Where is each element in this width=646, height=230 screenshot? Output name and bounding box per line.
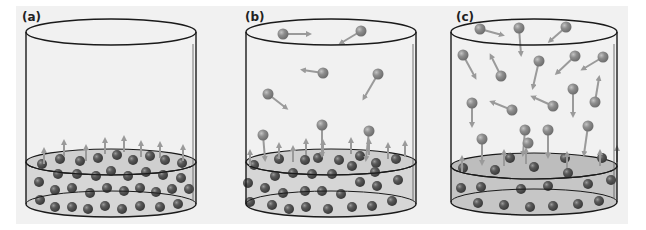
liquid-molecule [53, 169, 63, 179]
liquid-molecule [67, 202, 77, 212]
vapor-molecule [496, 71, 507, 82]
liquid-molecule [391, 154, 401, 164]
vapor-molecule [523, 138, 534, 149]
liquid-molecule [499, 200, 509, 210]
liquid-molecule [155, 202, 165, 212]
liquid-molecule [476, 182, 486, 192]
vapor-molecule [534, 56, 545, 67]
liquid-molecule [505, 153, 515, 163]
liquid-molecule [355, 177, 365, 187]
liquid-molecule [490, 165, 500, 175]
liquid-molecule [323, 204, 333, 214]
container-rim [246, 19, 416, 45]
liquid-molecule [85, 188, 95, 198]
liquid-molecule [583, 179, 593, 189]
liquid-molecule [67, 183, 77, 193]
liquid-molecule [151, 187, 161, 197]
vapor-molecule [598, 52, 609, 63]
container-rim [26, 19, 196, 45]
liquid-molecule [93, 153, 103, 163]
liquid-molecule [37, 159, 47, 169]
liquid-molecule [336, 189, 346, 199]
container-a [26, 19, 196, 217]
vapor-molecule [356, 26, 367, 37]
panel-label-a: (a) [22, 11, 41, 23]
liquid-molecule [145, 151, 155, 161]
liquid-molecule [176, 173, 186, 183]
liquid-molecule [347, 161, 357, 171]
liquid-molecule [560, 153, 570, 163]
liquid-molecule [123, 171, 133, 181]
vapor-molecule [568, 84, 579, 95]
vapor-molecule [263, 89, 274, 100]
container-b [243, 19, 416, 217]
liquid-molecule [173, 199, 183, 209]
liquid-molecule [167, 184, 177, 194]
vapor-molecule [570, 51, 581, 62]
vapor-molecule [258, 130, 269, 141]
liquid-molecule [371, 158, 381, 168]
vapor-molecule [278, 29, 289, 40]
liquid-molecule [141, 167, 151, 177]
panel-label-c: (c) [456, 11, 474, 23]
liquid-molecule [128, 155, 138, 165]
vapor-molecule [590, 97, 601, 108]
liquid-molecule [367, 201, 377, 211]
liquid-molecule [34, 177, 44, 187]
liquid-molecule [347, 202, 357, 212]
liquid-molecule [525, 202, 535, 212]
vapor-molecule [543, 125, 554, 136]
liquid-molecule [334, 155, 344, 165]
evaporation-diagram [0, 0, 646, 230]
liquid-molecule [606, 175, 616, 185]
liquid-molecule [597, 153, 607, 163]
liquid-molecule [370, 167, 380, 177]
panel-label-b: (b) [245, 11, 265, 23]
liquid-molecule [83, 204, 93, 214]
liquid-molecule [117, 204, 127, 214]
liquid-molecule [112, 150, 122, 160]
liquid-molecule [355, 151, 365, 161]
liquid-molecule [573, 199, 583, 209]
liquid-molecule [327, 169, 337, 179]
liquid-molecule [548, 201, 558, 211]
vapor-molecule [317, 120, 328, 131]
liquid-molecule [184, 184, 194, 194]
liquid-molecule [300, 155, 310, 165]
liquid-molecule [284, 204, 294, 214]
liquid-molecule [529, 162, 539, 172]
vapor-molecule [520, 125, 531, 136]
liquid-molecule [267, 200, 277, 210]
vapor-molecule [548, 101, 559, 112]
liquid-molecule [100, 201, 110, 211]
liquid-molecule [75, 156, 85, 166]
liquid-molecule [393, 175, 403, 185]
vapor-molecule [583, 121, 594, 132]
liquid-molecule [563, 168, 573, 178]
vapor-molecule [514, 23, 525, 34]
vapor-molecule [373, 69, 384, 80]
liquid-molecule [387, 196, 397, 206]
vapor-molecule [561, 22, 572, 33]
vapor-molecule [507, 105, 518, 116]
liquid-molecule [260, 183, 270, 193]
liquid-molecule [372, 181, 382, 191]
vapor-molecule [364, 126, 375, 137]
vapor-molecule [458, 50, 469, 61]
container-c [451, 19, 617, 215]
liquid-molecule [243, 178, 253, 188]
liquid-molecule [456, 183, 466, 193]
liquid-molecule [50, 202, 60, 212]
vapor-molecule [318, 68, 329, 79]
liquid-molecule [91, 171, 101, 181]
vapor-molecule [467, 98, 478, 109]
liquid-molecule [160, 155, 170, 165]
liquid-molecule [594, 196, 604, 206]
liquid-molecule [473, 198, 483, 208]
liquid-molecule [301, 202, 311, 212]
vapor-molecule [475, 24, 486, 35]
vapor-molecule [477, 134, 488, 145]
liquid-molecule [135, 201, 145, 211]
